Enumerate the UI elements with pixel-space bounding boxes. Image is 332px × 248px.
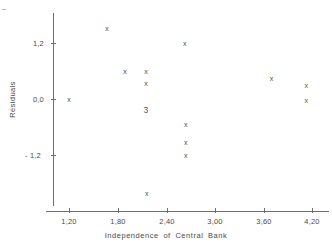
data-point-marker: x bbox=[142, 80, 149, 87]
y-tick-mark bbox=[51, 99, 56, 100]
x-tick-label: 2,40 bbox=[152, 217, 182, 226]
y-tick-label: - 1,2 bbox=[11, 151, 41, 160]
data-point-marker: x bbox=[182, 121, 189, 128]
x-tick-label: 1,80 bbox=[103, 217, 133, 226]
data-point-marker: x bbox=[181, 40, 188, 47]
data-point-marker: x bbox=[142, 68, 149, 75]
x-tick-mark bbox=[215, 208, 216, 213]
y-axis-line bbox=[53, 13, 54, 206]
x-tick-mark bbox=[167, 208, 168, 213]
y-tick-mark bbox=[51, 155, 56, 156]
data-point-marker: x bbox=[121, 68, 128, 75]
y-tick-label: 1,2 bbox=[14, 39, 44, 48]
scatter-plot-figure: 1,2 0,0 - 1,2 1,20 1,80 2,40 3,00 3,60 4… bbox=[0, 0, 332, 248]
x-axis-line bbox=[46, 211, 329, 212]
x-tick-label: 4,20 bbox=[297, 217, 327, 226]
data-point-marker: x bbox=[143, 190, 150, 197]
plot-area: 1,2 0,0 - 1,2 1,20 1,80 2,40 3,00 3,60 4… bbox=[0, 0, 332, 248]
data-point-marker: x bbox=[66, 96, 73, 103]
x-tick-label: 1,20 bbox=[54, 217, 84, 226]
x-axis-title: Independence of Central Bank bbox=[0, 231, 332, 240]
x-tick-label: 3,60 bbox=[249, 217, 279, 226]
y-axis-title: Residuals bbox=[8, 65, 17, 135]
x-tick-mark bbox=[264, 208, 265, 213]
data-point-marker: x bbox=[268, 75, 275, 82]
x-tick-mark bbox=[312, 208, 313, 213]
data-point-marker: x bbox=[303, 97, 310, 104]
x-tick-mark bbox=[118, 208, 119, 213]
x-tick-mark bbox=[69, 208, 70, 213]
x-tick-label: 3,00 bbox=[200, 217, 230, 226]
data-point-marker: x bbox=[104, 25, 111, 32]
overplot-count-label: 3 bbox=[142, 106, 150, 115]
data-point-marker: x bbox=[182, 152, 189, 159]
y-tick-mark bbox=[51, 43, 56, 44]
y-tick-label: 0,0 bbox=[14, 95, 44, 104]
data-point-marker: x bbox=[182, 139, 189, 146]
data-point-marker: x bbox=[303, 82, 310, 89]
